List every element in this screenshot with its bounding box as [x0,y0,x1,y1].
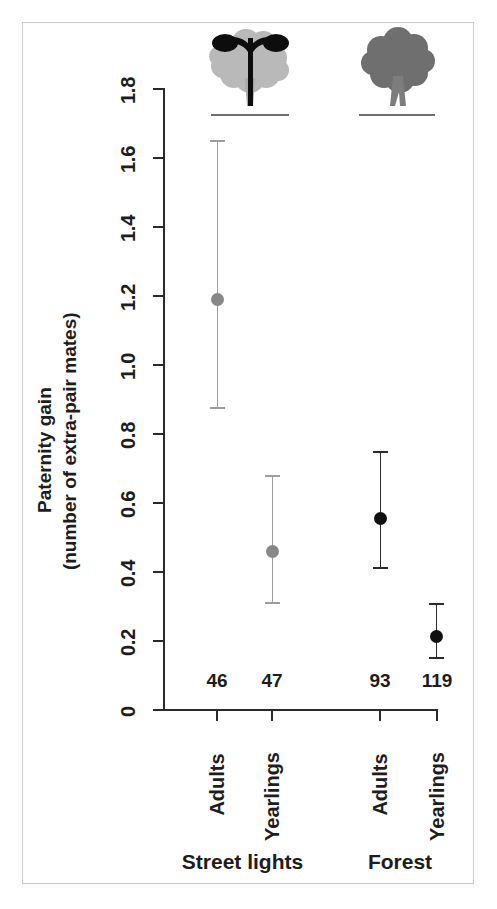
point-marker-forest-yearlings[interactable] [430,630,443,643]
y-tick-label-1.4: 1.4 [117,206,140,252]
x-tick-label-street-lights-yearlings: Yearlings [261,742,284,852]
errorbar-cap-lower-street-lights-adults [210,407,225,409]
x-tick-street-lights-yearlings [271,710,273,721]
x-tick-label-forest-yearlings: Yearlings [426,742,449,852]
errorbar-cap-lower-forest-yearlings [429,657,444,659]
y-tick-0.2 [153,640,163,642]
street-light-tree-icon [206,26,294,126]
street-light-ground-line [211,114,289,116]
figure-container: 0 0.2 0.4 0.6 0.8 1.0 1.2 1.4 1.6 1.8 Pa… [0,0,497,909]
errorbar-line-street-lights-yearlings [272,475,274,603]
y-axis-line [163,88,165,711]
y-tick-label-0.8: 0.8 [117,413,140,459]
y-tick-label-0.4: 0.4 [117,551,140,597]
y-axis-title-line2: (number of extra-pair mates) [57,330,82,570]
x-tick-forest-yearlings [436,710,438,721]
errorbar-cap-upper-forest-yearlings [429,603,444,605]
y-tick-1.6 [153,157,163,159]
point-marker-street-lights-adults[interactable] [211,293,224,306]
sample-size-street-lights-yearlings: 47 [246,670,298,692]
y-tick-label-1.6: 1.6 [117,137,140,183]
errorbar-line-forest-adults [380,451,382,569]
group-label-forest: Forest [355,850,445,874]
plot-area: 0 0.2 0.4 0.6 0.8 1.0 1.2 1.4 1.6 1.8 Pa… [0,0,497,909]
point-marker-street-lights-yearlings[interactable] [266,545,279,558]
forest-ground-line [359,114,435,116]
errorbar-cap-upper-forest-adults [373,451,388,453]
forest-tree-icon [357,26,439,126]
errorbar-cap-lower-street-lights-yearlings [265,602,280,604]
y-tick-label-1.0: 1.0 [117,344,140,390]
sample-size-forest-adults: 93 [354,670,406,692]
errorbar-cap-lower-forest-adults [373,567,388,569]
y-tick-label-1.2: 1.2 [117,275,140,321]
x-axis-line [163,709,438,711]
x-tick-street-lights-adults [216,710,218,721]
sample-size-forest-yearlings: 119 [409,670,465,692]
y-tick-1.2 [153,295,163,297]
y-tick-1.0 [153,364,163,366]
street-light-tree-svg [206,26,294,116]
y-tick-label-0: 0 [117,689,140,735]
group-label-street-lights: Street lights [175,850,310,874]
y-axis-title: Paternity gain (number of extra-pair mat… [32,330,82,570]
y-tick-0.6 [153,502,163,504]
y-tick-0.4 [153,571,163,573]
errorbar-cap-upper-street-lights-adults [210,140,225,142]
y-axis-title-line1: Paternity gain [32,330,57,570]
errorbar-line-street-lights-adults [217,140,219,408]
sample-size-street-lights-adults: 46 [191,670,243,692]
x-tick-forest-adults [379,710,381,721]
x-tick-label-forest-adults: Adults [369,745,392,825]
y-tick-1.4 [153,226,163,228]
x-tick-label-street-lights-adults: Adults [206,745,229,825]
y-tick-label-1.8: 1.8 [117,68,140,114]
point-marker-forest-adults[interactable] [374,512,387,525]
forest-tree-svg [357,26,439,116]
y-tick-0 [153,709,163,711]
y-tick-1.8 [153,88,163,90]
y-tick-label-0.6: 0.6 [117,482,140,528]
errorbar-cap-upper-street-lights-yearlings [265,475,280,477]
y-tick-label-0.2: 0.2 [117,620,140,666]
y-tick-0.8 [153,433,163,435]
